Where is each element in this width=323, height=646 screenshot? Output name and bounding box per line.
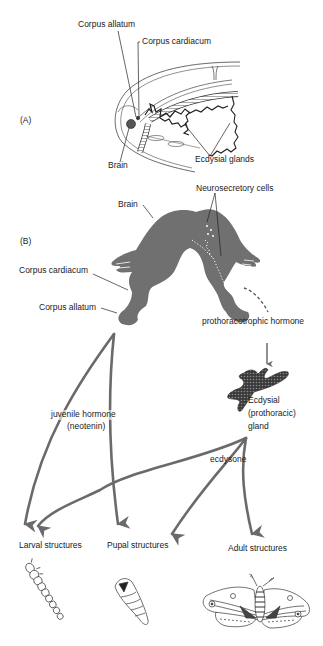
label-prothoracotrophic-hormone: prothoracotrophic hormone <box>202 317 304 327</box>
label-ecdysial-gland-2: (prothoracic) <box>248 409 296 419</box>
moth-illustration <box>203 574 309 628</box>
label-neurosecretory-cells: Neurosecretory cells <box>196 184 273 194</box>
arrow-ecdysone-to-larval <box>38 438 246 526</box>
hormone-dashed-path <box>244 288 268 312</box>
hormone-arrows <box>25 334 252 534</box>
label-ecdysial-gland-3: gland <box>248 422 269 432</box>
label-brain-b: Brain <box>118 200 138 210</box>
arrow-ecdysone-to-adult <box>243 438 252 534</box>
pupa-illustration <box>115 579 148 625</box>
label-brain-a: Brain <box>108 161 128 171</box>
panel-a-label: (A) <box>20 116 31 126</box>
label-adult-structures: Adult structures <box>228 544 287 554</box>
label-larval-structures: Larval structures <box>19 541 82 551</box>
label-corpus-cardiacum-a: Corpus cardiacum <box>142 37 211 47</box>
label-corpus-allatum-a: Corpus allatum <box>78 20 135 30</box>
larva-illustration <box>22 557 69 621</box>
label-ecdysone: ecdysone <box>210 455 246 465</box>
arrow-jh-to-pupal <box>110 334 118 524</box>
label-corpus-cardiacum-b: Corpus cardiacum <box>19 266 88 276</box>
label-pupal-structures: Pupal structures <box>107 541 168 551</box>
label-ecdysial-glands: Ecdysial glands <box>195 155 254 165</box>
label-corpus-allatum-b: Corpus allatum <box>39 303 96 313</box>
label-ecdysial-gland-1: Ecdysial <box>248 396 280 406</box>
panel-b-label: (B) <box>20 237 31 247</box>
label-juvenile-hormone-2: (neotenin) <box>67 422 105 432</box>
brain-complex-illustration <box>111 209 260 325</box>
brain-dot-a <box>127 120 136 129</box>
label-juvenile-hormone-1: juvenile hormone <box>51 410 116 420</box>
